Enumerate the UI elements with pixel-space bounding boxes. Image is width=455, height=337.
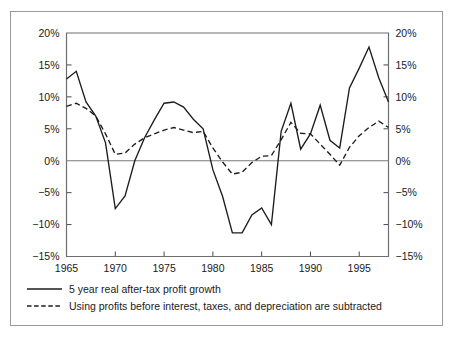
y-axis-tick-label-left: 20% [38, 27, 59, 39]
x-axis-tick-label: 1985 [250, 262, 274, 274]
series-line-solid [67, 47, 389, 233]
y-axis-tick-label-left: 15% [38, 59, 59, 71]
y-axis-tick-label-right: 0% [396, 155, 411, 167]
y-axis-tick-label-right: 10% [396, 91, 417, 103]
y-axis-tick-label-left: −15% [32, 250, 59, 262]
y-axis-tick-label-right: −10% [396, 218, 423, 230]
legend-item-label: 5 year real after-tax profit growth [69, 283, 221, 295]
y-axis-tick-label-left: 5% [44, 123, 59, 135]
y-axis-tick-label-right: 5% [396, 123, 411, 135]
chart-legend: 5 year real after-tax profit growthUsing… [27, 283, 382, 312]
y-axis-right-ticks [384, 65, 389, 225]
y-axis-tick-label-left: 10% [38, 91, 59, 103]
x-axis-tick-label: 1980 [201, 262, 225, 274]
y-axis-tick-label-left: 0% [44, 155, 59, 167]
y-axis-tick-label-right: −15% [396, 250, 423, 262]
data-series-group [67, 47, 389, 233]
line-chart: 20%15%10%5%0%−5%−10%−15% 20%15%10%5%0%−5… [0, 0, 455, 337]
x-axis-tick-label: 1975 [152, 262, 176, 274]
x-axis-tick-label: 1990 [299, 262, 323, 274]
y-axis-tick-label-left: −10% [32, 218, 59, 230]
y-axis-tick-label-right: 20% [396, 27, 417, 39]
legend-item-label: Using profits before interest, taxes, an… [69, 300, 382, 312]
series-line-dashed [67, 103, 389, 174]
x-axis-labels: 1965197019751980198519901995 [55, 262, 371, 274]
y-axis-left-labels: 20%15%10%5%0%−5%−10%−15% [32, 27, 59, 262]
x-axis-tick-label: 1965 [55, 262, 79, 274]
y-axis-left-ticks [67, 33, 72, 257]
chart-figure: 20%15%10%5%0%−5%−10%−15% 20%15%10%5%0%−5… [0, 0, 455, 337]
x-axis-tick-label: 1970 [104, 262, 128, 274]
y-axis-tick-label-left: −5% [38, 186, 59, 198]
x-axis-tick-label: 1995 [348, 262, 372, 274]
y-axis-right-labels: 20%15%10%5%0%−5%−10%−15% [396, 27, 423, 262]
x-axis-ticks [115, 252, 359, 257]
y-axis-tick-label-right: 15% [396, 59, 417, 71]
y-axis-tick-label-right: −5% [396, 186, 417, 198]
